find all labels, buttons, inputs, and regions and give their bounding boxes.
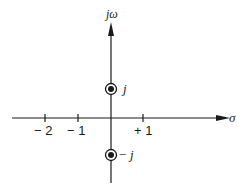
point-label-minus-j: − j — [118, 148, 134, 161]
sigma-axis-arrowhead — [216, 115, 230, 121]
sigma-axis-label: σ — [229, 111, 235, 124]
tick-label-minus-2: − 2 — [34, 124, 52, 137]
point-label-j: j — [123, 82, 127, 95]
jw-axis-arrowhead — [108, 22, 114, 36]
marker-j — [106, 84, 117, 95]
tick-label-plus-1: + 1 — [134, 124, 152, 137]
jw-axis-label: jω — [106, 8, 118, 21]
tick-label-minus-1: − 1 — [67, 124, 85, 137]
marker-minus-j — [106, 150, 117, 161]
